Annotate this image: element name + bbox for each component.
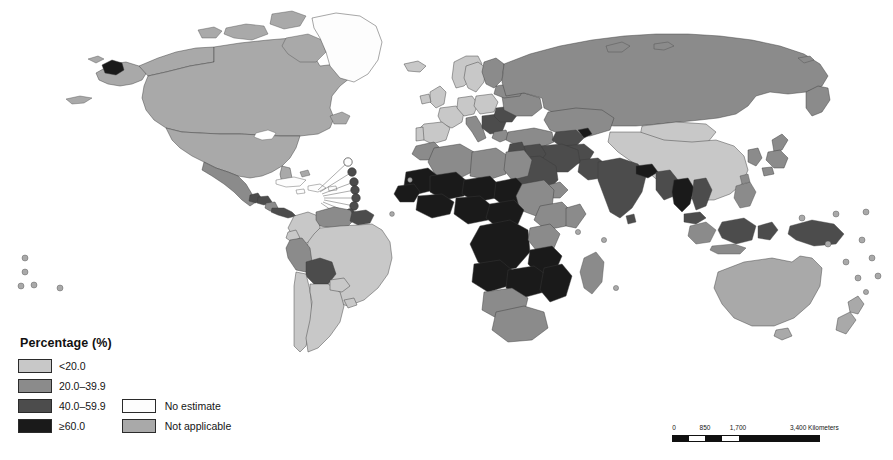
- island-left-5: [57, 285, 63, 291]
- legend-item-under-20: <20.0: [18, 356, 106, 376]
- legend-item-60-plus: ≥60.0: [18, 416, 106, 436]
- scale-tick-1700: 1,700: [730, 424, 746, 431]
- legend-swatch-20-39: [18, 379, 52, 393]
- country-libya: [470, 148, 508, 180]
- callout-circle-2: [348, 168, 356, 176]
- island-pacific-7: [863, 289, 868, 294]
- island-indian-1: [575, 229, 580, 234]
- legend-title: Percentage (%): [20, 336, 268, 350]
- scale-bar-ticks: 0 850 1,700 3,400 Kilometers: [672, 424, 820, 435]
- island-pacific-2: [859, 237, 865, 243]
- map-legend: Percentage (%) <20.0 20.0–39.9 40.0–59.9…: [18, 336, 268, 436]
- country-egypt: [504, 150, 532, 180]
- island-jamaica: [296, 189, 305, 194]
- callout-circle-3: [350, 178, 358, 186]
- legend-swatch-60-plus: [18, 419, 52, 433]
- island-canary: [408, 178, 413, 183]
- legend-label-20-39: 20.0–39.9: [59, 380, 106, 392]
- legend-item-no-estimate: No estimate: [122, 396, 232, 416]
- island-pacific-9: [833, 211, 839, 217]
- scale-seg-1: [673, 436, 689, 441]
- island-sri-lanka: [626, 214, 636, 224]
- country-portugal: [416, 127, 424, 141]
- legend-label-not-applicable: Not applicable: [165, 420, 232, 432]
- island-indian-2: [601, 237, 606, 242]
- callout-circle-5: [352, 194, 360, 202]
- island-left-2: [22, 269, 28, 275]
- scale-bar-graphic: [672, 435, 820, 442]
- island-left-3: [18, 283, 24, 289]
- island-taiwan: [740, 174, 750, 184]
- island-pacific-8: [799, 215, 805, 221]
- scale-tick-850: 850: [700, 424, 711, 431]
- island-pacific-10: [863, 209, 869, 215]
- island-indian-3: [613, 285, 618, 290]
- island-pacific-3: [843, 259, 849, 265]
- scale-seg-3: [705, 436, 722, 441]
- legend-item-not-applicable: Not applicable: [122, 416, 232, 436]
- country-poland: [474, 94, 498, 114]
- legend-swatch-40-59: [18, 399, 52, 413]
- legend-item-40-59: 40.0–59.9: [18, 396, 106, 416]
- legend-item-20-39: 20.0–39.9: [18, 376, 106, 396]
- island-left-4: [31, 282, 37, 288]
- scale-seg-4: [722, 436, 739, 441]
- country-ireland: [420, 94, 431, 104]
- legend-label-40-59: 40.0–59.9: [59, 400, 106, 412]
- map-figure: { "figure": { "type": "world-choropleth-…: [0, 0, 893, 460]
- island-left-1: [22, 255, 28, 261]
- island-pacific-1: [825, 241, 831, 247]
- country-kazakhstan: [544, 108, 614, 136]
- callout-circle-4: [351, 186, 359, 194]
- scale-tick-0: 0: [672, 424, 676, 431]
- map-scale-bar: 0 850 1,700 3,400 Kilometers: [672, 424, 872, 442]
- legend-label-no-estimate: No estimate: [165, 400, 221, 412]
- scale-seg-2: [689, 436, 705, 441]
- legend-label-60-plus: ≥60.0: [59, 420, 85, 432]
- legend-column-percentage: <20.0 20.0–39.9 40.0–59.9 ≥60.0: [18, 356, 106, 436]
- island-cape-verde: [390, 212, 395, 217]
- island-pacific-6: [875, 273, 881, 279]
- island-pacific-4: [869, 255, 875, 261]
- scale-seg-5: [739, 436, 819, 441]
- legend-swatch-no-estimate: [122, 399, 156, 413]
- legend-label-under-20: <20.0: [59, 360, 86, 372]
- legend-swatch-not-applicable: [122, 419, 156, 433]
- legend-column-other: No estimate Not applicable: [122, 356, 232, 436]
- scale-tick-3400-kilometers: 3,400 Kilometers: [790, 424, 839, 431]
- legend-swatch-under-20: [18, 359, 52, 373]
- island-pacific-5: [855, 275, 861, 281]
- callout-circle-no-estimate: [344, 158, 352, 166]
